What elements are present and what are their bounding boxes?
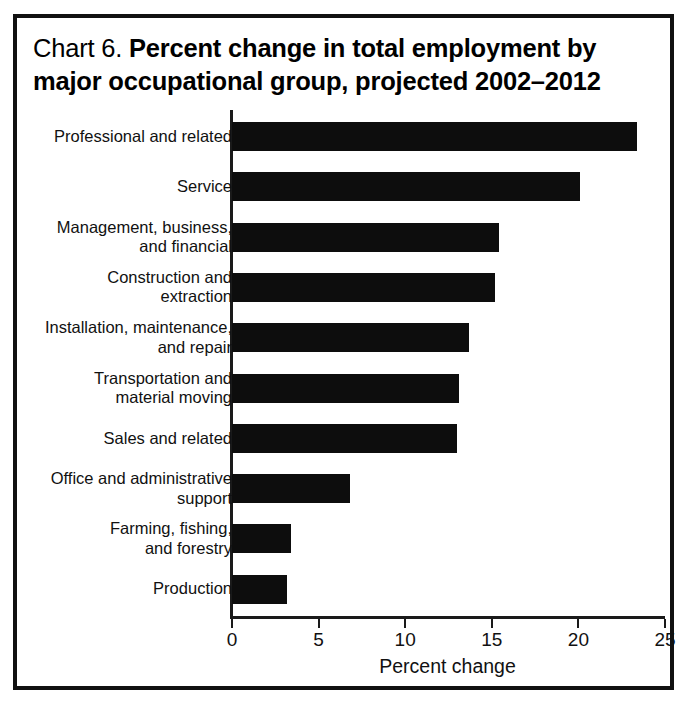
bar-row: Farming, fishing,and forestry: [17, 524, 670, 553]
x-axis-tick-label: 15: [467, 629, 517, 651]
bar-category-label: Construction andextraction: [0, 268, 232, 307]
bar-category-label: Office and administrativesupport: [0, 469, 232, 508]
x-axis-tick-label: 10: [380, 629, 430, 651]
bar-category-label: Service: [0, 177, 232, 197]
bar: [232, 575, 287, 604]
bar-row: Production: [17, 575, 670, 604]
x-axis-tick-label: 0: [207, 629, 257, 651]
bar-row: Professional and related: [17, 122, 670, 151]
bar: [232, 273, 495, 302]
x-axis-tick-label: 20: [553, 629, 603, 651]
bar-row: Construction andextraction: [17, 273, 670, 302]
bar: [232, 223, 499, 252]
x-axis-tick-label: 25: [640, 629, 690, 651]
bar-category-label: Sales and related: [0, 429, 232, 449]
x-axis-tick: [231, 619, 233, 628]
bar-row: Transportation andmaterial moving: [17, 374, 670, 403]
plot-area: 0510152025 Professional and relatedServi…: [17, 18, 670, 686]
bar: [232, 524, 291, 553]
bar-row: Management, business,and financial: [17, 223, 670, 252]
bar-category-label: Transportation andmaterial moving: [0, 369, 232, 408]
x-axis-title: Percent change: [230, 655, 665, 678]
bar: [232, 122, 637, 151]
bar-category-label: Installation, maintenance,and repair: [0, 318, 232, 357]
bar: [232, 172, 580, 201]
bar: [232, 474, 350, 503]
x-axis-tick: [404, 619, 406, 628]
bar-row: Office and administrativesupport: [17, 474, 670, 503]
bar-row: Installation, maintenance,and repair: [17, 323, 670, 352]
bar: [232, 323, 469, 352]
x-axis-tick: [577, 619, 579, 628]
bar: [232, 374, 459, 403]
bar-category-label: Farming, fishing,and forestry: [0, 519, 232, 558]
x-axis-line: [230, 616, 665, 619]
chart-frame: Chart 6. Percent change in total employm…: [13, 14, 674, 690]
x-axis-tick: [664, 619, 666, 628]
bar-category-label: Professional and related: [0, 127, 232, 147]
x-axis-tick-label: 5: [294, 629, 344, 651]
bar: [232, 424, 457, 453]
bar-row: Service: [17, 172, 670, 201]
x-axis-tick: [318, 619, 320, 628]
bar-category-label: Production: [0, 579, 232, 599]
bar-row: Sales and related: [17, 424, 670, 453]
x-axis-tick: [491, 619, 493, 628]
bar-category-label: Management, business,and financial: [0, 218, 232, 257]
